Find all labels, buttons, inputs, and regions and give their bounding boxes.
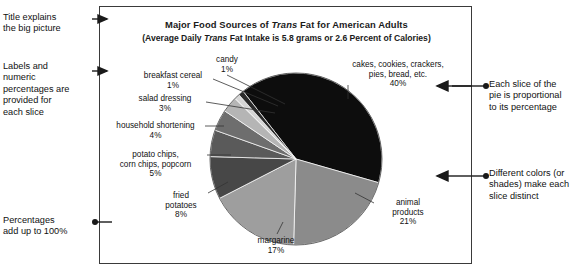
slice-label-animal-products: animal products 21% bbox=[377, 198, 439, 227]
annotation-left-labels-percent: Labels and numeric percentages are provi… bbox=[3, 61, 91, 118]
slice-label-margarine: margarine 17% bbox=[241, 236, 311, 255]
annotation-right-proportional: Each slice of the pie is proportional to… bbox=[489, 79, 582, 113]
slice-label-cakes: cakes, cookies, crackers, pies, bread, e… bbox=[338, 60, 458, 89]
annotation-dot-right-2 bbox=[484, 174, 489, 179]
slice-label-fried-potatoes: fried potatoes 8% bbox=[156, 191, 206, 220]
pie-slice-group bbox=[210, 73, 382, 245]
annotation-dot-right-1 bbox=[484, 84, 489, 89]
slice-label-breakfast-cereal: breakfast cereal 1% bbox=[131, 71, 215, 90]
annotation-left-add-up-100: Percentages add up to 100% bbox=[3, 215, 93, 238]
slice-label-household-shortening: household shortening 4% bbox=[103, 121, 208, 140]
annotation-dot-left-3 bbox=[93, 220, 98, 225]
annotation-right-colors: Different colors (or shades) make each s… bbox=[489, 168, 582, 202]
chart-frame: Major Food Sources of Trans Fat for Amer… bbox=[99, 6, 472, 264]
slice-label-potato-chips: potato chips, corn chips, popcorn 5% bbox=[106, 150, 205, 179]
slice-label-salad-dressing: salad dressing 3% bbox=[122, 94, 208, 113]
figure-page: Major Food Sources of Trans Fat for Amer… bbox=[0, 0, 584, 276]
annotation-left-title-explains: Title explains the big picture bbox=[3, 12, 89, 35]
